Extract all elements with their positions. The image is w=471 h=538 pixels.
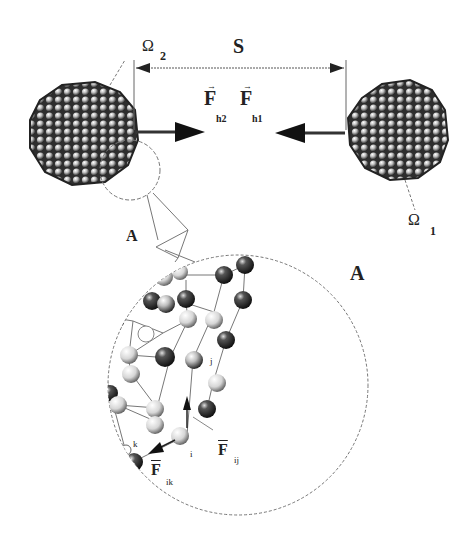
force-ij-label: F xyxy=(218,442,228,458)
omega1-subscript: 1 xyxy=(430,225,436,237)
cluster-omega1 xyxy=(348,80,448,180)
omega1-label: Ω xyxy=(408,212,420,228)
atom-k xyxy=(125,453,143,471)
vector-arrow-icon: → xyxy=(243,82,252,91)
separation-label: S xyxy=(233,36,244,56)
atom-j-label: j xyxy=(210,357,213,366)
force-arrow-h1 xyxy=(275,123,345,143)
detail-A-title: A xyxy=(350,263,364,283)
atom-k-label: k xyxy=(133,440,138,449)
omega2-label: Ω xyxy=(142,38,154,54)
omega2-subscript: 2 xyxy=(160,50,166,62)
vector-arrow-icon: → xyxy=(207,82,216,91)
marker-A-label: A xyxy=(126,228,138,244)
force-ik-subscript: ik xyxy=(166,478,173,487)
atom-i xyxy=(171,427,189,445)
force-h1-subscript: h1 xyxy=(252,114,263,124)
atom-i-label: i xyxy=(190,450,193,459)
omega1-leader-line xyxy=(405,180,415,210)
zoom-callout xyxy=(147,193,195,262)
force-h1-label: F xyxy=(240,88,252,108)
force-h2-subscript: h2 xyxy=(216,114,227,124)
diagram-canvas: Ω 2 S F → h2 F → h1 Ω 1 A A j i k F ij F… xyxy=(0,0,471,538)
force-arrow-h2 xyxy=(135,122,205,142)
force-ik-label: F xyxy=(151,462,161,478)
arrowhead-left-icon xyxy=(136,63,150,73)
force-h2-label: F xyxy=(204,88,216,108)
force-ij-subscript: ij xyxy=(234,456,239,465)
cluster-omega2 xyxy=(30,82,138,185)
arrowhead-right-icon xyxy=(330,63,344,73)
omega2-leader-line xyxy=(110,60,125,85)
